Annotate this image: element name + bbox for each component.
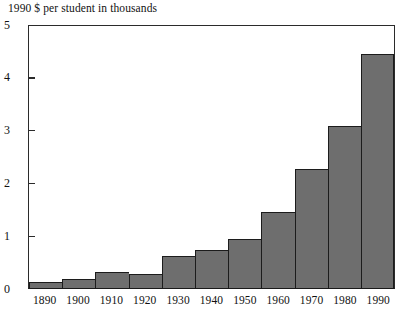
- y-tick-label: 4: [4, 69, 10, 85]
- bar-slot: [295, 26, 328, 288]
- bar-slot: [95, 26, 128, 288]
- bar-slot: [129, 26, 162, 288]
- bar: [228, 239, 261, 288]
- x-tick-label: 1890: [28, 292, 61, 308]
- y-tick-mark: [28, 77, 35, 78]
- bar-slot: [62, 26, 95, 288]
- bar-slot: [228, 26, 261, 288]
- x-tick-label: 1980: [328, 292, 361, 308]
- chart-title: 1990 $ per student in thousands: [8, 1, 157, 15]
- y-tick-label: 3: [4, 122, 10, 138]
- bar: [29, 282, 62, 288]
- x-tick-label: 1990: [362, 292, 395, 308]
- bar-slot: [261, 26, 294, 288]
- y-tick-label: 0: [4, 281, 10, 297]
- bar-slot: [328, 26, 361, 288]
- x-tick-label: 1900: [61, 292, 94, 308]
- bar: [62, 279, 95, 288]
- y-tick-label: 1: [4, 228, 10, 244]
- bar: [162, 256, 195, 288]
- x-tick-label: 1910: [95, 292, 128, 308]
- bar: [129, 274, 162, 288]
- y-tick-label: 2: [4, 175, 10, 191]
- x-tick-label: 1930: [161, 292, 194, 308]
- bar: [328, 126, 361, 288]
- bar: [361, 54, 394, 288]
- y-tick-mark: [28, 236, 35, 237]
- y-tick-mark: [28, 130, 35, 131]
- bar-slot: [162, 26, 195, 288]
- bars-layer: [29, 26, 394, 288]
- x-axis-labels: 1890190019101920193019401950196019701980…: [28, 292, 395, 308]
- bar-slot: [361, 26, 394, 288]
- x-tick-label: 1960: [262, 292, 295, 308]
- bar: [195, 250, 228, 288]
- y-tick-label: 5: [4, 17, 10, 33]
- x-tick-label: 1950: [228, 292, 261, 308]
- bar-slot: [195, 26, 228, 288]
- bar: [261, 212, 294, 289]
- x-tick-label: 1940: [195, 292, 228, 308]
- y-tick-mark: [28, 183, 35, 184]
- x-tick-label: 1970: [295, 292, 328, 308]
- x-tick-label: 1920: [128, 292, 161, 308]
- bar-chart: 1990 $ per student in thousands 012345 1…: [0, 0, 402, 323]
- bar-slot: [29, 26, 62, 288]
- bar: [295, 169, 328, 288]
- bar: [95, 272, 128, 288]
- plot-area: [28, 25, 395, 289]
